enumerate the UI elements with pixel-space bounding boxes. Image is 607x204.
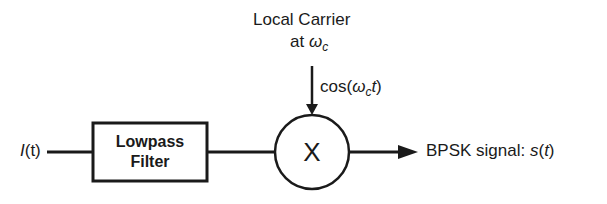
output-label: BPSK signal: s(t): [426, 141, 555, 161]
input-label: I(t): [20, 141, 41, 161]
output-arrowhead-icon: [398, 145, 418, 159]
filter-line1: Lowpass: [116, 132, 184, 152]
mixer-symbol: X: [274, 114, 350, 190]
lowpass-filter-label: Lowpass Filter: [93, 123, 207, 181]
carrier-title: Local Carrier: [253, 10, 350, 30]
carrier-signal-label: cos(ωct): [320, 77, 382, 99]
filter-line2: Filter: [130, 152, 169, 172]
carrier-frequency: at ωc: [290, 32, 328, 54]
